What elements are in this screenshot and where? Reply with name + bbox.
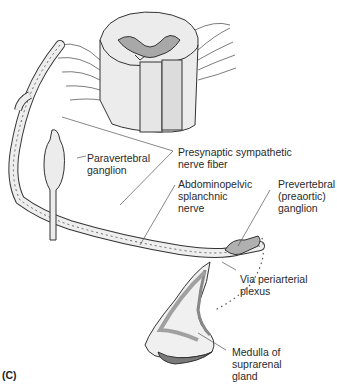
label-periarterial-plexus: Via periarterial plexus: [240, 273, 308, 297]
label-abdominopelvic-nerve: Abdominopelvic splanchnic nerve: [178, 178, 252, 214]
label-presynaptic-fiber: Presynaptic sympathetic nerve fiber: [178, 146, 292, 170]
label-suprarenal-medulla: Medulla of suprarenal gland: [232, 346, 282, 382]
panel-label: (C): [2, 369, 17, 381]
label-prevertebral-ganglion: Prevertebral (preaortic) ganglion: [278, 178, 335, 214]
label-paravertebral-ganglion: Paravertebral ganglion: [87, 152, 150, 176]
suprarenal-gland: [145, 262, 214, 364]
spinal-cord: [100, 12, 198, 132]
